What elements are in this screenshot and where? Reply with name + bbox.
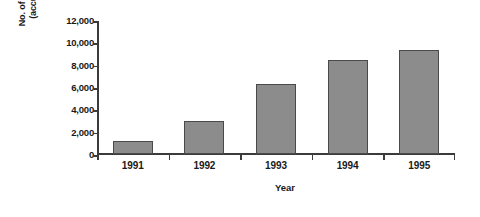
- x-axis-tick-label: 1994: [318, 160, 378, 171]
- y-axis-tick-label: 2,000: [36, 128, 94, 138]
- y-axis-tick-labels: 02,0004,0006,0008,00010,00012,000: [36, 15, 94, 157]
- plot-area: [97, 21, 455, 155]
- bar: [399, 50, 439, 154]
- x-axis-tick-label: 1993: [246, 160, 306, 171]
- y-axis-title-line-1: No. of enterprises: [17, 0, 29, 26]
- y-axis-tick-label: 6,000: [36, 83, 94, 93]
- x-axis-tick-label: 1992: [174, 160, 234, 171]
- y-axis-tick-label: 10,000: [36, 38, 94, 48]
- x-axis-tick-labels: 19911992199319941995: [97, 160, 455, 176]
- x-axis-tick-label: 1995: [389, 160, 449, 171]
- y-axis-tick-label: 8,000: [36, 61, 94, 71]
- bar: [256, 84, 296, 154]
- y-axis-tick-label: 4,000: [36, 105, 94, 115]
- bar: [113, 141, 153, 154]
- x-axis-title: Year: [230, 182, 340, 193]
- bar: [328, 60, 368, 154]
- y-axis-tick-label: 12,000: [36, 16, 94, 26]
- y-axis-tick-label: 0: [36, 150, 94, 160]
- bar: [184, 121, 224, 155]
- x-axis-tick-label: 1991: [103, 160, 163, 171]
- bars-layer: [97, 21, 455, 155]
- bar-chart: No. of enterprises (accumulated) 02,0004…: [0, 0, 480, 217]
